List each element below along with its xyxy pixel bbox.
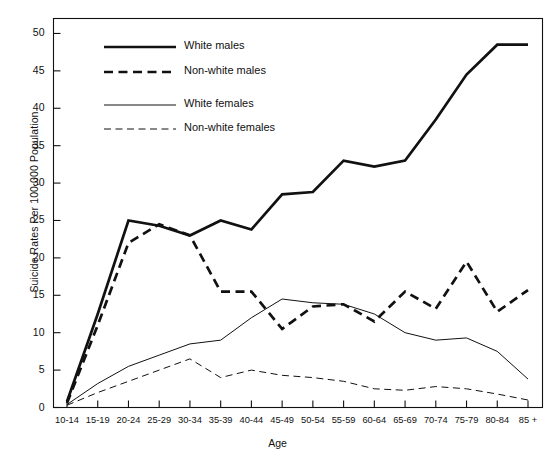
y-tick-label: 50 <box>23 26 45 38</box>
y-tick-label: 35 <box>23 139 45 151</box>
x-tick-label: 70-74 <box>419 415 453 425</box>
legend-label: White males <box>184 39 245 51</box>
plot-frame <box>54 19 543 408</box>
x-tick-label: 45-49 <box>265 415 299 425</box>
x-tick-label: 15-19 <box>81 415 115 425</box>
y-tick-label: 30 <box>23 176 45 188</box>
x-tick-label: 65-69 <box>388 415 422 425</box>
x-tick-label: 20-24 <box>111 415 145 425</box>
y-tick-label: 5 <box>23 363 45 375</box>
x-tick-label: 40-44 <box>234 415 268 425</box>
x-tick-label: 25-29 <box>142 415 176 425</box>
series-line-white-males <box>67 45 528 402</box>
x-tick-label: 50-54 <box>296 415 330 425</box>
x-axis-title: Age <box>0 437 555 449</box>
x-tick-label: 55-59 <box>327 415 361 425</box>
x-tick-label: 85 + <box>511 415 545 425</box>
suicide-rates-line-chart: Suicide Rates Per 100,000 Population Age… <box>0 0 555 461</box>
x-tick-label: 10-14 <box>50 415 84 425</box>
y-tick-label: 20 <box>23 251 45 263</box>
series-line-non-white-females <box>67 359 528 405</box>
plot-area <box>0 0 555 461</box>
y-tick-label: 25 <box>23 213 45 225</box>
legend-label: Non-white males <box>184 64 266 76</box>
x-tick-label: 60-64 <box>357 415 391 425</box>
x-tick-label: 30-34 <box>173 415 207 425</box>
x-tick-label: 35-39 <box>204 415 238 425</box>
x-tick-label: 80-84 <box>480 415 514 425</box>
y-tick-label: 10 <box>23 326 45 338</box>
legend-label: White females <box>184 97 254 109</box>
x-tick-label: 75-79 <box>450 415 484 425</box>
y-tick-label: 15 <box>23 288 45 300</box>
legend-label: Non-white females <box>184 121 275 133</box>
y-tick-label: 0 <box>23 401 45 413</box>
y-tick-label: 40 <box>23 101 45 113</box>
y-tick-label: 45 <box>23 64 45 76</box>
